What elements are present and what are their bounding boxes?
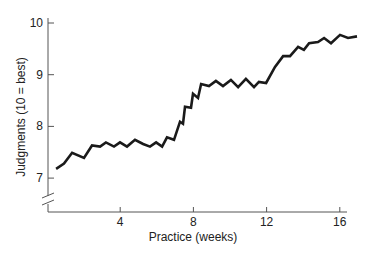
x-ticks: 481216 bbox=[117, 207, 347, 229]
y-tick-label: 9 bbox=[36, 68, 43, 82]
x-tick-label: 8 bbox=[190, 215, 197, 229]
y-tick-label: 7 bbox=[36, 171, 43, 185]
y-axis-label: Judgments (10 = best) bbox=[14, 57, 28, 177]
y-tick-label: 10 bbox=[30, 16, 44, 30]
x-tick-label: 4 bbox=[117, 215, 124, 229]
line-chart: 78910 481216 Practice (weeks) Judgments … bbox=[0, 0, 366, 253]
y-ticks: 78910 bbox=[30, 16, 54, 185]
x-tick-label: 12 bbox=[260, 215, 274, 229]
x-axis-label: Practice (weeks) bbox=[149, 230, 238, 244]
judgments-line bbox=[56, 35, 357, 169]
y-tick-label: 8 bbox=[36, 119, 43, 133]
x-tick-label: 16 bbox=[333, 215, 347, 229]
